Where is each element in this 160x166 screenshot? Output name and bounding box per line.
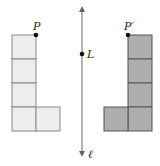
point-p-prime xyxy=(126,33,131,38)
point-p-prime-label: P′ xyxy=(123,20,134,33)
grid-cell xyxy=(128,59,152,83)
grid-cell xyxy=(12,35,36,59)
reflected-shape xyxy=(104,35,152,131)
grid-cell xyxy=(104,107,128,131)
original-shape xyxy=(12,35,60,131)
line-label: ℓ xyxy=(88,148,93,161)
point-l xyxy=(80,52,85,57)
point-p-label: P xyxy=(32,20,41,33)
reflection-diagram: ℓ L P P′ xyxy=(0,0,160,166)
grid-cell xyxy=(12,83,36,107)
grid-cell xyxy=(128,35,152,59)
grid-cell xyxy=(36,107,60,131)
grid-cell xyxy=(128,83,152,107)
point-p xyxy=(34,33,39,38)
point-l-label: L xyxy=(86,48,94,61)
grid-cell xyxy=(12,59,36,83)
grid-cell xyxy=(12,107,36,131)
grid-cell xyxy=(128,107,152,131)
